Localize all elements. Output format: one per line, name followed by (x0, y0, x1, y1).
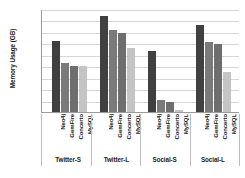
series-label-row: Neo4jGemFireConcertoMySQL (96, 114, 136, 154)
bar-group (45, 10, 93, 112)
bar (214, 44, 222, 112)
x-axis-group: Neo4jGemFireConcertoMySQLTwitter-L (92, 114, 140, 176)
group-separator (140, 114, 141, 166)
series-tick-label-text: MySQL (182, 114, 189, 134)
group-category-label: Social-L (201, 156, 225, 163)
series-tick-label: GemFire (204, 114, 212, 154)
bar (205, 42, 213, 112)
series-label-row: Neo4jGemFireConcertoMySQL (193, 114, 233, 154)
series-tick-label: MySQL (126, 114, 134, 154)
series-label-row: Neo4jGemFireConcertoMySQL (48, 114, 88, 154)
bar (175, 110, 183, 112)
series-tick-label: MySQL (222, 114, 230, 154)
x-axis-group: Neo4jGemFireConcertoMySQLSocial-L (189, 114, 237, 176)
series-tick-label-text: MySQL (230, 114, 237, 134)
group-category-label: Twitter-L (104, 156, 129, 163)
series-tick-label: Concerto (117, 114, 125, 154)
series-tick-label: GemFire (156, 114, 164, 154)
bar (127, 48, 135, 112)
plot-area: 5122561286432168421 (41, 10, 239, 113)
group-category-label: Social-S (153, 156, 177, 163)
bar (223, 72, 231, 112)
bar (70, 66, 78, 112)
group-separator (239, 114, 240, 166)
bar-group (189, 10, 237, 112)
series-tick-label: GemFire (60, 114, 68, 154)
y-axis-title: Memory Usage (GB) (9, 16, 16, 102)
bar (196, 25, 204, 112)
bar (118, 33, 126, 112)
series-tick-label: Neo4j (51, 114, 59, 154)
series-tick-label: GemFire (108, 114, 116, 154)
bar (157, 100, 165, 112)
bar-groups (42, 10, 239, 112)
group-separator (41, 114, 42, 166)
series-tick-label: Concerto (213, 114, 221, 154)
series-label-row: Neo4jGemFireConcertoMySQL (145, 114, 185, 154)
group-category-label: Twitter-S (55, 156, 81, 163)
series-tick-label: Concerto (69, 114, 77, 154)
x-axis-group: Neo4jGemFireConcertoMySQLTwitter-S (44, 114, 92, 176)
series-tick-label: Neo4j (147, 114, 155, 154)
memory-usage-bar-chart: Memory Usage (GB) 5122561286432168421 Ne… (0, 0, 245, 178)
group-separator (190, 114, 191, 166)
x-axis-group: Neo4jGemFireConcertoMySQLSocial-S (141, 114, 189, 176)
series-tick-label: Neo4j (195, 114, 203, 154)
bar (166, 102, 174, 112)
bar (61, 63, 69, 112)
bar-group (93, 10, 141, 112)
bar (100, 16, 108, 112)
bar (109, 30, 117, 112)
bar (79, 66, 87, 112)
series-tick-label: MySQL (78, 114, 86, 154)
bar-group (141, 10, 189, 112)
series-tick-label: Neo4j (99, 114, 107, 154)
group-separator (91, 114, 92, 166)
bar (148, 51, 156, 112)
series-tick-label: Concerto (165, 114, 173, 154)
series-tick-label: MySQL (174, 114, 182, 154)
bar (52, 41, 60, 112)
